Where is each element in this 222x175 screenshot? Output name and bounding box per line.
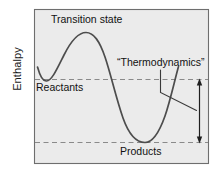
reactants-label: Reactants [36, 81, 83, 93]
products-label: Products [120, 145, 161, 157]
transition-state-label: Transition state [51, 13, 122, 25]
reaction-coordinate-enthalpy-diagram: Enthalpy Transition state Reactants “The… [0, 0, 222, 175]
thermodynamics-label: “Thermodynamics” [117, 56, 205, 68]
diagram-canvas [0, 0, 222, 175]
y-axis-label: Enthalpy [11, 33, 23, 105]
